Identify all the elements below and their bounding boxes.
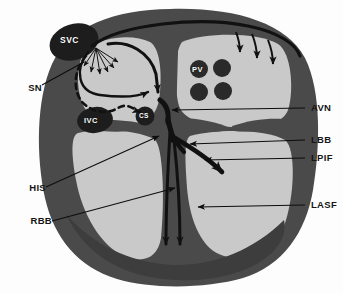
left-atrium: [176, 35, 292, 127]
label-lasf: LASF: [311, 200, 337, 210]
label-ivc: IVC: [84, 116, 98, 125]
label-avn: AVN: [311, 103, 331, 113]
label-rbb: RBB: [8, 216, 52, 226]
label-sn: SN: [10, 83, 42, 93]
label-pv: PV: [192, 65, 203, 74]
cardiac-conduction-diagram: SN HIS RBB AVN LBB LPIF LASF SVC IVC CS …: [0, 0, 343, 293]
label-his: HIS: [8, 183, 46, 193]
pulmonary-vein-upper-right: [213, 59, 231, 77]
label-cs: CS: [139, 112, 148, 119]
pulmonary-vein-lower-left: [190, 83, 208, 101]
pulmonary-vein-lower-right: [214, 82, 232, 100]
label-svc: SVC: [60, 35, 79, 45]
heart-illustration: [0, 0, 343, 293]
label-lpif: LPIF: [311, 153, 333, 163]
label-lbb: LBB: [311, 135, 331, 145]
